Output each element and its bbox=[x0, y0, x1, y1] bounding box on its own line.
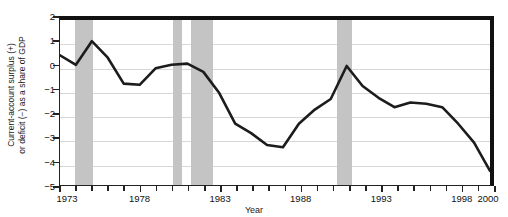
x-tick-mark bbox=[156, 186, 158, 191]
x-tick-mark bbox=[252, 186, 254, 191]
x-tick-mark bbox=[107, 186, 109, 191]
x-tick-label: 1978 bbox=[129, 193, 150, 204]
x-tick-mark bbox=[59, 186, 61, 192]
x-tick-label: 2000 bbox=[477, 193, 498, 204]
y-axis-title-line2: or deficit (−) as a share of GDP bbox=[17, 36, 28, 153]
y-tick-mark bbox=[53, 186, 59, 188]
y-tick-mark bbox=[53, 113, 59, 115]
y-axis-tick-labels: 210−1−2−3−4−5 bbox=[36, 0, 55, 217]
x-tick-mark bbox=[301, 186, 303, 192]
y-axis-title: Current-account surplus (+) or deficit (… bbox=[0, 0, 34, 190]
x-axis-title: Year bbox=[0, 205, 508, 215]
y-tick-mark bbox=[53, 89, 59, 91]
recession-band bbox=[490, 20, 494, 185]
x-tick-mark bbox=[75, 186, 77, 191]
x-tick-mark bbox=[462, 186, 464, 192]
x-tick-label: 1983 bbox=[210, 193, 231, 204]
x-tick-mark bbox=[478, 186, 480, 191]
x-tick-mark bbox=[349, 186, 351, 191]
x-tick-mark bbox=[172, 186, 174, 191]
x-tick-mark bbox=[430, 186, 432, 191]
x-tick-mark bbox=[268, 186, 270, 191]
x-tick-mark bbox=[381, 186, 383, 192]
x-tick-mark bbox=[188, 186, 190, 191]
x-tick-label: 1988 bbox=[290, 193, 311, 204]
x-tick-label: 1973 bbox=[56, 193, 77, 204]
series-line-current-account bbox=[60, 20, 490, 185]
x-tick-label: 1993 bbox=[371, 193, 392, 204]
x-tick-mark bbox=[413, 186, 415, 191]
y-tick-mark bbox=[53, 162, 59, 164]
x-tick-mark bbox=[91, 186, 93, 191]
x-tick-label: 1998 bbox=[451, 193, 472, 204]
y-tick-mark bbox=[53, 137, 59, 139]
x-tick-mark bbox=[204, 186, 206, 191]
y-tick-mark bbox=[53, 16, 59, 18]
x-tick-mark bbox=[285, 186, 287, 191]
x-tick-mark bbox=[220, 186, 222, 192]
x-tick-mark bbox=[317, 186, 319, 191]
plot-area bbox=[59, 16, 494, 186]
x-tick-mark bbox=[365, 186, 367, 191]
y-tick-mark bbox=[53, 65, 59, 67]
x-tick-mark bbox=[140, 186, 142, 192]
x-tick-mark bbox=[494, 186, 496, 192]
chart-container: Current-account surplus (+) or deficit (… bbox=[0, 0, 508, 217]
y-axis-title-line1: Current-account surplus (+) bbox=[6, 36, 17, 153]
y-tick-mark bbox=[53, 40, 59, 42]
x-tick-mark bbox=[397, 186, 399, 191]
x-tick-mark bbox=[123, 186, 125, 191]
x-tick-mark bbox=[236, 186, 238, 191]
x-tick-mark bbox=[333, 186, 335, 191]
x-tick-mark bbox=[446, 186, 448, 191]
